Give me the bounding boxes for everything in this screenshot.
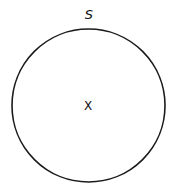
diagram-canvas: S X	[0, 0, 176, 188]
circle-label: S	[85, 7, 93, 22]
center-point-label: X	[84, 99, 92, 113]
